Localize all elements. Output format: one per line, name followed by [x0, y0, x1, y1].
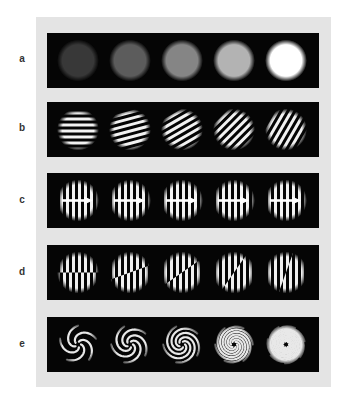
stimulus-e-5: [267, 326, 304, 363]
panel-split-gratings: [47, 245, 319, 300]
stimulus-a-4: [213, 40, 255, 82]
panel-spiral-patterns: [47, 317, 319, 372]
row-label-a: a: [16, 53, 28, 65]
panel-luminance-disks: [47, 33, 319, 88]
panel-oriented-gratings: [47, 102, 319, 157]
stimulus-c-3: [152, 173, 209, 228]
stimulus-a-5: [265, 40, 307, 82]
stimulus-e-3: [163, 326, 199, 362]
panel-gratings-motion-arrow: [47, 173, 319, 228]
row-label-e: e: [16, 338, 28, 350]
stimulus-b-1: [48, 102, 108, 157]
figure: a b c d e: [0, 0, 337, 399]
stimulus-c-5: [256, 173, 313, 228]
stimulus-a-2: [109, 40, 151, 82]
row-label-c: c: [16, 194, 28, 206]
stimulus-d-2: [100, 245, 160, 300]
stimulus-c-4: [204, 173, 261, 228]
stimulus-e-1: [60, 326, 96, 361]
stimulus-a-3: [161, 40, 203, 82]
stimulus-e-4: [215, 327, 253, 363]
row-label-b: b: [16, 122, 28, 134]
stimulus-e-2: [111, 326, 147, 362]
stimulus-c-2: [100, 173, 157, 228]
row-label-d: d: [16, 266, 28, 278]
stimulus-d-4: [204, 245, 264, 300]
stimulus-d-1: [48, 245, 108, 300]
stimulus-c-1: [48, 173, 105, 228]
stimulus-d-5: [256, 245, 316, 300]
stimulus-a-1: [57, 40, 99, 82]
stimulus-d-3: [152, 245, 212, 300]
